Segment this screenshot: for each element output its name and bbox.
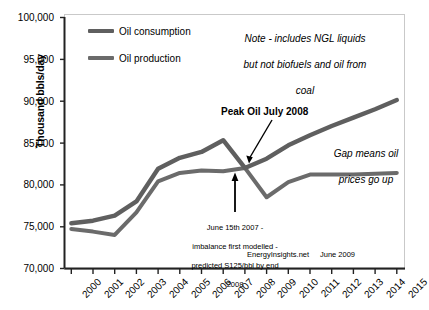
gap-annotation: Gap means oil prices go up	[321, 134, 411, 186]
credit-date: June 2009	[320, 250, 355, 259]
legend-item-oil-production: Oil production	[88, 49, 191, 67]
note-annotation: Note - includes NGL liquids but not biof…	[215, 19, 395, 97]
legend-swatch-oil-production	[88, 56, 114, 60]
gap-line-1: Gap means oil	[334, 148, 398, 159]
legend-item-oil-consumption: Oil consumption	[88, 22, 191, 40]
gap-line-2: prices go up	[339, 174, 393, 185]
legend-label-oil-production: Oil production	[119, 53, 181, 64]
peak-oil-label: Peak Oil July 2008	[221, 106, 308, 117]
credit-source: EnergyInsights.net	[247, 250, 309, 259]
note-line-2: but not biofuels and oil from	[244, 59, 367, 70]
note-line-1: Note - includes NGL liquids	[245, 33, 366, 44]
note-line-3: coal	[296, 85, 314, 96]
imbalance-line-4: 2008	[227, 280, 244, 289]
legend-label-oil-consumption: Oil consumption	[119, 26, 191, 37]
legend-swatch-oil-consumption	[88, 29, 114, 33]
imbalance-arrow	[232, 173, 239, 213]
imbalance-line-1: June 15th 2007 -	[207, 223, 263, 232]
imbalance-line-3: predicted S125/bbl by end	[191, 261, 278, 270]
chart-legend: Oil consumption Oil production	[88, 22, 191, 67]
